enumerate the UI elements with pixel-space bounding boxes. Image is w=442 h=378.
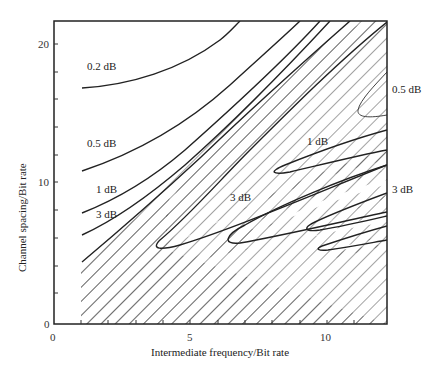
y-tick-10: 10 (38, 176, 50, 188)
contour-0.2db (82, 21, 240, 88)
label-3db-inner: 3 dB (230, 191, 251, 203)
x-axis-title: Intermediate frequency/Bit rate (151, 346, 289, 358)
label-3db-right: 3 dB (392, 183, 413, 195)
label-0.5db-right: 0.5 dB (392, 83, 421, 95)
x-tick-10: 10 (320, 331, 332, 343)
label-0.2db: 0.2 dB (87, 60, 116, 72)
plot-area (81, 10, 400, 324)
x-tick-5: 5 (187, 331, 193, 343)
label-1db: 1 dB (96, 183, 117, 195)
label-0.5db: 0.5 dB (87, 137, 116, 149)
label-1db-inner: 1 dB (307, 135, 328, 147)
label-3db: 3 dB (96, 208, 117, 220)
y-axis-title: Channel spacing/Bit rate (16, 163, 28, 272)
contour-chart: 20 10 0 0 5 10 Intermediate frequency/Bi… (0, 0, 442, 378)
y-tick-20: 20 (38, 38, 50, 50)
y-tick-0: 0 (44, 318, 50, 330)
x-tick-0: 0 (50, 331, 56, 343)
